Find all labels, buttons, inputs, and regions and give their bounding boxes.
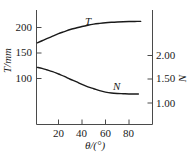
left-tick-label-200: 200 (8, 22, 32, 33)
bottom-tick-label-60: 60 (94, 128, 117, 139)
bottom-axis-ticks (59, 120, 130, 125)
chart-figure: 200 150 100 2.00 1.50 1.00 20 40 60 80 T… (0, 0, 194, 159)
right-tick-label-200: 2.00 (156, 50, 182, 61)
curve-label-T: T (85, 16, 91, 27)
curve-force-N (37, 67, 138, 94)
bottom-tick-label-40: 40 (70, 128, 93, 139)
right-axis-ticks (148, 56, 153, 104)
right-tick-label-100: 1.00 (156, 98, 182, 109)
left-axis-ticks (37, 28, 42, 79)
left-axis-title: T/mm (2, 41, 13, 81)
curve-label-N: N (113, 81, 120, 92)
bottom-axis-title: θ/(°) (72, 140, 118, 151)
right-axis-title: N (177, 69, 188, 89)
bottom-tick-label-20: 20 (47, 128, 70, 139)
bottom-tick-label-80: 80 (117, 128, 140, 139)
